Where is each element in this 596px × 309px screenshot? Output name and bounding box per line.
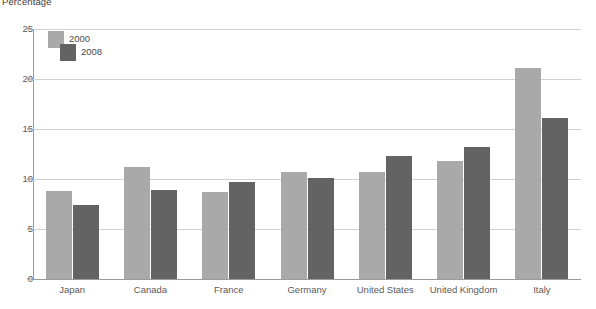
legend-label-2000: 2000 bbox=[69, 34, 90, 44]
x-tick-label: Japan bbox=[59, 285, 85, 295]
x-tick-label: United Kingdom bbox=[430, 285, 498, 295]
y-tick-mark bbox=[27, 279, 32, 280]
x-tick-label: France bbox=[214, 285, 244, 295]
x-tick-label: Germany bbox=[287, 285, 326, 295]
y-tick-mark bbox=[27, 29, 32, 30]
y-tick-mark bbox=[27, 129, 32, 130]
legend-swatch-icon-2008 bbox=[60, 44, 76, 61]
x-tick-label: Canada bbox=[134, 285, 167, 295]
y-tick-mark bbox=[27, 179, 32, 180]
y-axis: 0510152025 bbox=[0, 0, 33, 309]
x-tick-label: Italy bbox=[533, 285, 550, 295]
y-tick-mark bbox=[27, 229, 32, 230]
x-tick-label: United States bbox=[357, 285, 414, 295]
chart-legend: 2000 2008 bbox=[48, 31, 168, 65]
y-tick-mark bbox=[27, 79, 32, 80]
legend-label-2008: 2008 bbox=[81, 47, 102, 57]
bar-chart: Percentage 0510152025 JapanCanadaFranceG… bbox=[0, 0, 596, 309]
